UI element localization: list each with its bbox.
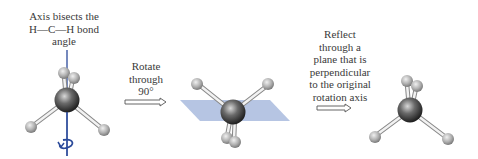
hydrogen-atom [442,133,454,145]
hydrogen-atom [262,78,274,90]
right-arrow-icon [125,98,166,106]
hydrogen-atom [369,131,381,143]
hydrogen-atom [25,121,37,133]
hydrogen-atom [68,72,80,84]
methane-molecule-rotated [180,78,290,148]
hydrogen-atom [229,136,241,148]
right-arrow-icon [317,104,351,112]
carbon-atom [221,100,246,125]
hydrogen-atom [411,80,423,92]
hydrogen-atom [98,124,110,136]
carbon-atom [398,98,423,123]
rotation-arrow-icon [58,140,72,149]
diagram-canvas [0,0,478,159]
carbon-atom [55,88,80,113]
hydrogen-atom [191,78,203,90]
methane-molecule-initial [25,50,110,156]
methane-molecule-reflected [369,75,454,145]
